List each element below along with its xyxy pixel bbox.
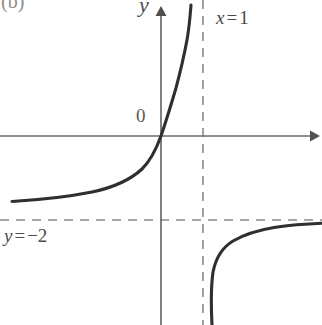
vertical-asymptote-equals: =: [224, 7, 239, 28]
horizontal-asymptote-equals: =: [12, 225, 27, 246]
vertical-asymptote-value: 1: [239, 7, 249, 28]
horizontal-asymptote-label: y=−2: [4, 226, 47, 245]
hyperbola-figure: (b) y 0 x=1 y=−2: [0, 0, 322, 325]
horizontal-asymptote-value: −2: [27, 225, 47, 246]
curve-left-branch: [12, 5, 191, 202]
vertical-asymptote-label: x=1: [216, 8, 249, 27]
y-axis-arrow-icon: [156, 6, 167, 16]
origin-label: 0: [136, 106, 146, 125]
y-axis-label: y: [139, 0, 149, 16]
panel-label: (b): [1, 0, 24, 11]
x-axis-arrow-icon: [310, 131, 320, 142]
plot-canvas: [0, 0, 322, 325]
curve-right-branch: [211, 223, 322, 325]
